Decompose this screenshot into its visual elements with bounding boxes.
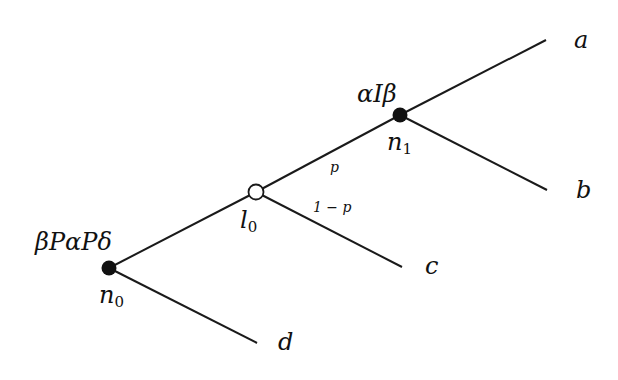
edge-l0-n1 bbox=[256, 115, 400, 192]
leaf-d: d bbox=[278, 328, 293, 356]
n0-annotation: βPαPδ bbox=[34, 228, 112, 256]
leaf-c: c bbox=[425, 252, 438, 280]
n1-label: n1 bbox=[387, 128, 412, 158]
game-tree-diagram: βPαPδ αIβ n0 l0 n1 p 1 − p a b c d bbox=[0, 0, 618, 380]
l0-label: l0 bbox=[240, 206, 257, 236]
edge-n1-a bbox=[400, 40, 546, 115]
decision-node-n1 bbox=[393, 108, 408, 123]
prob-1-minus-p: 1 − p bbox=[313, 199, 352, 215]
decision-node-n0 bbox=[102, 261, 117, 276]
prob-p: p bbox=[330, 159, 339, 175]
n1-annotation: αIβ bbox=[357, 80, 397, 108]
leaf-b: b bbox=[576, 176, 591, 204]
edge-n1-b bbox=[400, 115, 547, 190]
chance-node-l0 bbox=[249, 185, 264, 200]
n0-label: n0 bbox=[99, 281, 124, 311]
edge-n0-l0 bbox=[109, 192, 256, 268]
edge-n0-d bbox=[109, 268, 257, 343]
leaf-a: a bbox=[574, 26, 588, 54]
